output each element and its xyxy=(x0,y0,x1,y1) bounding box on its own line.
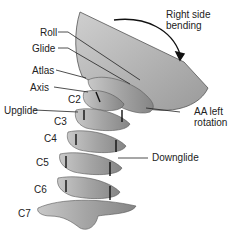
vertebrae xyxy=(38,91,136,230)
label-right-side-bending: Right side xyxy=(166,9,210,20)
label-glide: Glide xyxy=(32,43,55,54)
label-c3: C3 xyxy=(54,116,67,127)
label-c7: C7 xyxy=(18,208,31,219)
label-roll: Roll xyxy=(40,27,57,38)
label-atlas: Atlas xyxy=(32,65,54,76)
label-axis: Axis xyxy=(30,82,49,93)
label-c2: C2 xyxy=(68,94,81,105)
label-upglide: Upglide xyxy=(4,105,38,116)
label-aa-left-rotation: AA left xyxy=(194,106,223,117)
label-aa-left-rotation-2: rotation xyxy=(194,117,227,128)
label-downglide: Downglide xyxy=(152,152,199,163)
label-c4: C4 xyxy=(44,133,57,144)
label-c6: C6 xyxy=(34,184,47,195)
label-c5: C5 xyxy=(36,157,49,168)
label-right-side-bending-2: bending xyxy=(166,20,202,31)
